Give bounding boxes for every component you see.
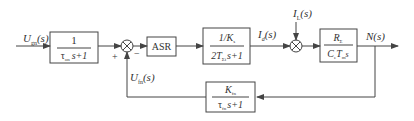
- sum1-plus-sign: +: [112, 51, 118, 62]
- motor-numerator: RΣ: [332, 32, 342, 44]
- block-diagram: + − Ugn(s) 1 τons+1 ASR 1/Ks 2TΣis+1 Id(…: [0, 0, 414, 121]
- current-loop-numerator: 1/Ks: [219, 32, 235, 44]
- summing-junction-1: [121, 40, 133, 52]
- feedback-signal-label: Ufn(s): [130, 71, 155, 85]
- load-current-label: IL(s): [292, 7, 312, 21]
- output-signal-label: N(s): [365, 30, 385, 43]
- asr-label: ASR: [152, 41, 172, 52]
- current-signal-label: Id(s): [257, 28, 277, 42]
- input-filter-denominator: τons+1: [61, 50, 88, 62]
- input-filter-numerator: 1: [71, 34, 77, 46]
- motor-denominator: CeTms: [327, 48, 348, 60]
- current-loop-denominator: 2TΣis+1: [211, 50, 243, 62]
- feedback-filter-numerator: Kfn: [224, 84, 236, 96]
- input-signal-label: Ugn(s): [23, 32, 49, 46]
- feedback-filter-denominator: τfns+1: [218, 99, 243, 111]
- summing-junction-2: [290, 40, 302, 52]
- sum1-minus-sign: −: [134, 48, 140, 59]
